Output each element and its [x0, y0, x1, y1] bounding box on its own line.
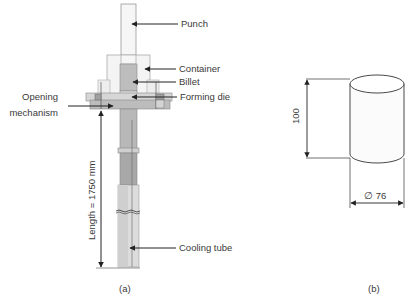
- extrusion-apparatus: [86, 4, 172, 268]
- caption-a: (a): [119, 284, 131, 294]
- diameter-dimension-label: ∅ 76: [364, 191, 386, 201]
- billet-shape: [120, 64, 137, 91]
- cooling-tube-label: Cooling tube: [179, 243, 232, 253]
- opening-mechanism-label-line1: Opening: [0, 92, 58, 102]
- caption-b: (b): [368, 284, 380, 294]
- forming-die-label: Forming die: [180, 92, 230, 102]
- punch-label: Punch: [181, 19, 208, 29]
- container-label: Container: [179, 64, 220, 74]
- length-label: Length = 1750 mm: [87, 161, 97, 240]
- height-dimension-label: 100: [291, 108, 301, 124]
- opening-mechanism-label-line2: mechanism: [0, 108, 58, 118]
- billet-label: Billet: [179, 77, 200, 87]
- billet-cylinder: [306, 75, 404, 208]
